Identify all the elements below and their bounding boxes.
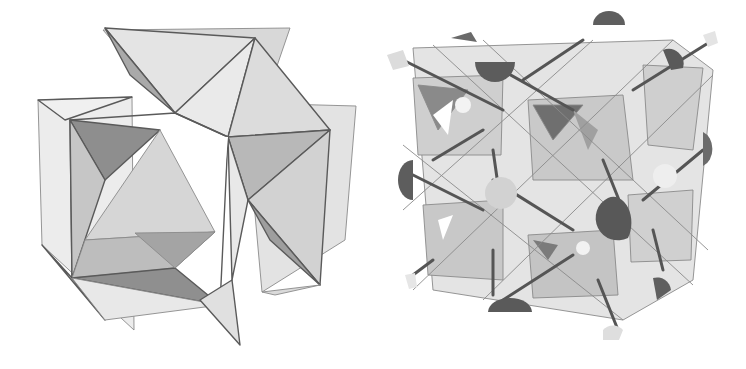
single-cell-octahedral-framework — [0, 0, 373, 369]
cation-sphere — [455, 97, 471, 113]
cation-sphere — [451, 32, 477, 42]
cation-sphere — [576, 241, 590, 255]
cation-sphere — [405, 273, 417, 289]
cage-lower-right — [628, 190, 693, 262]
cation-sphere — [653, 164, 677, 188]
cage-lower-center — [528, 230, 618, 298]
single-cell-panel — [0, 0, 373, 369]
cage-lower-left — [423, 200, 503, 280]
supercell-octahedral-framework — [373, 0, 746, 369]
cation-sphere — [387, 50, 409, 70]
cage-upper-center — [528, 95, 633, 180]
cation-sphere — [703, 132, 712, 166]
supercell-panel — [373, 0, 746, 369]
cation-sphere — [603, 326, 623, 340]
cation-sphere — [593, 11, 625, 25]
cation-sphere — [485, 177, 517, 209]
crystal-structure-figure — [0, 0, 746, 369]
cation-sphere — [398, 160, 413, 200]
